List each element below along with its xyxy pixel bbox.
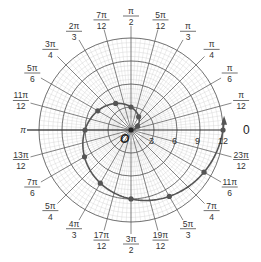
data-point <box>128 104 133 109</box>
data-point <box>95 108 100 113</box>
svg-text:3: 3 <box>186 32 191 42</box>
angle-label: 19π12 <box>153 230 169 251</box>
svg-text:12: 12 <box>16 101 26 111</box>
svg-text:12: 12 <box>156 241 166 251</box>
svg-text:6: 6 <box>227 188 232 198</box>
svg-text:12: 12 <box>156 21 166 31</box>
radial-tick-6: 6 <box>172 136 177 146</box>
angle-label: 2π3 <box>66 21 82 42</box>
angle-label: 5π12 <box>153 10 169 31</box>
radial-tick-labels: 36912 <box>149 136 228 146</box>
data-point <box>98 181 103 186</box>
svg-text:2π: 2π <box>69 21 80 31</box>
angle-label: 13π12 <box>13 150 29 171</box>
angle-label: 5π6 <box>24 63 40 84</box>
svg-text:3π: 3π <box>126 234 137 244</box>
svg-text:12: 12 <box>236 101 246 111</box>
data-point <box>82 127 87 132</box>
data-point <box>113 101 118 106</box>
svg-text:4: 4 <box>209 50 214 60</box>
data-point <box>82 154 87 159</box>
svg-text:2: 2 <box>129 17 134 27</box>
angle-label: 7π12 <box>93 10 109 31</box>
angle-label: 11π6 <box>222 177 238 198</box>
angle-label: 7π4 <box>204 201 220 222</box>
svg-text:π: π <box>128 6 134 16</box>
angle-label: 5π4 <box>42 201 58 222</box>
svg-text:7π: 7π <box>96 10 107 20</box>
svg-text:6: 6 <box>227 74 232 84</box>
svg-text:11π: 11π <box>14 90 29 100</box>
data-point <box>220 127 225 132</box>
angle-label: 3π2 <box>123 234 139 255</box>
svg-text:4: 4 <box>48 50 53 60</box>
svg-text:3: 3 <box>72 32 77 42</box>
svg-text:π: π <box>209 39 215 49</box>
data-point <box>128 196 133 201</box>
svg-text:π: π <box>227 63 233 73</box>
angle-label: π2 <box>123 6 139 27</box>
radial-tick-12: 12 <box>218 136 228 146</box>
svg-text:5π: 5π <box>155 10 166 20</box>
origin-label: O <box>120 132 130 146</box>
svg-text:4π: 4π <box>69 219 80 229</box>
svg-text:4: 4 <box>209 212 214 222</box>
svg-text:13π: 13π <box>13 150 28 160</box>
angle-label: 5π3 <box>180 219 196 240</box>
svg-text:4: 4 <box>48 212 53 222</box>
angle-label: 7π6 <box>24 177 40 198</box>
svg-text:3: 3 <box>186 230 191 240</box>
angle-label: π12 <box>233 90 249 111</box>
svg-text:3: 3 <box>72 230 77 240</box>
svg-text:6: 6 <box>30 188 35 198</box>
angle-label: π4 <box>204 39 220 60</box>
svg-text:23π: 23π <box>233 150 248 160</box>
svg-text:12: 12 <box>97 241 107 251</box>
svg-text:12: 12 <box>97 21 107 31</box>
angle-label: 3π4 <box>42 39 58 60</box>
svg-text:3π: 3π <box>45 39 56 49</box>
svg-text:19π: 19π <box>153 230 168 240</box>
data-point <box>136 114 141 119</box>
svg-text:5π: 5π <box>45 201 56 211</box>
polar-chart: π12π6π4π35π12π27π122π33π45π611π12π13π127… <box>0 0 261 262</box>
data-point <box>167 194 172 199</box>
svg-text:12: 12 <box>16 161 26 171</box>
svg-text:5π: 5π <box>27 63 38 73</box>
svg-text:π: π <box>238 90 244 100</box>
svg-text:π: π <box>20 125 26 135</box>
svg-text:π: π <box>185 21 191 31</box>
radial-tick-9: 9 <box>195 136 200 146</box>
angle-label: π3 <box>180 21 196 42</box>
angle-label: 23π12 <box>233 150 249 171</box>
svg-text:17π: 17π <box>94 230 109 240</box>
angle-label: 17π12 <box>93 230 109 251</box>
svg-text:7π: 7π <box>206 201 217 211</box>
data-point <box>135 124 140 129</box>
svg-text:7π: 7π <box>27 177 38 187</box>
radial-tick-3: 3 <box>149 136 154 146</box>
angle-label: π <box>20 125 26 135</box>
svg-text:11π: 11π <box>222 177 237 187</box>
svg-text:12: 12 <box>236 161 246 171</box>
svg-text:5π: 5π <box>183 219 194 229</box>
svg-text:6: 6 <box>30 74 35 84</box>
svg-text:2: 2 <box>129 245 134 255</box>
angle-label: 4π3 <box>66 219 82 240</box>
angle-label: 11π12 <box>13 90 29 111</box>
data-point <box>201 170 206 175</box>
polar-axis-zero-label: 0 <box>243 123 250 137</box>
angle-label: π6 <box>222 63 238 84</box>
